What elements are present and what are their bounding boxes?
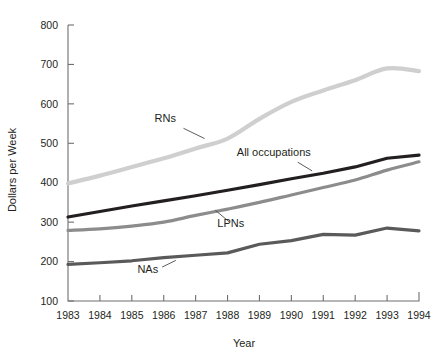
x-tick-label: 1989 <box>248 309 272 321</box>
y-tick-label: 200 <box>40 255 58 267</box>
x-tick-label: 1990 <box>280 309 304 321</box>
x-tick-label: 1993 <box>375 309 399 321</box>
data-series-group <box>68 68 419 264</box>
series-line-nas <box>68 228 419 264</box>
series-line-all-occupations <box>68 155 419 217</box>
y-tick-label: 100 <box>40 295 58 307</box>
series-labels: RNsAll occupationsLPNsNAs <box>137 112 311 274</box>
x-axis-ticks <box>100 295 387 301</box>
series-line-rns <box>68 68 419 184</box>
x-tick-label: 1991 <box>312 309 336 321</box>
leader-line-all-occupations <box>298 162 312 171</box>
series-label-lpns: LPNs <box>217 217 244 229</box>
y-tick-label: 700 <box>40 58 58 70</box>
x-tick-label: 1994 <box>407 309 431 321</box>
line-chart: 100200300400500600700800 198319841985198… <box>0 0 447 360</box>
series-label-nas: NAs <box>137 263 158 275</box>
leader-line-nas <box>162 260 176 267</box>
y-tick-label: 800 <box>40 19 58 31</box>
x-tick-label: 1988 <box>216 309 240 321</box>
y-axis-title: Dollars per Week <box>6 127 18 212</box>
series-label-rns: RNs <box>155 112 177 124</box>
x-axis-title: Year <box>233 337 256 349</box>
x-tick-label: 1987 <box>184 309 208 321</box>
x-tick-label: 1983 <box>56 309 80 321</box>
x-tick-label: 1992 <box>344 309 368 321</box>
x-tick-label: 1986 <box>152 309 176 321</box>
x-axis-tick-labels: 1983198419851986198719881989199019911992… <box>56 309 431 321</box>
x-tick-label: 1984 <box>88 309 112 321</box>
y-tick-label: 300 <box>40 216 58 228</box>
series-label-all-occupations: All occupations <box>237 146 311 158</box>
y-axis-ticks <box>68 25 74 301</box>
y-axis-tick-labels: 100200300400500600700800 <box>40 19 58 307</box>
chart-container: 100200300400500600700800 198319841985198… <box>0 0 447 360</box>
y-tick-label: 500 <box>40 137 58 149</box>
y-tick-label: 600 <box>40 98 58 110</box>
x-tick-label: 1985 <box>120 309 144 321</box>
leader-line-rns <box>184 128 205 138</box>
y-tick-label: 400 <box>40 176 58 188</box>
